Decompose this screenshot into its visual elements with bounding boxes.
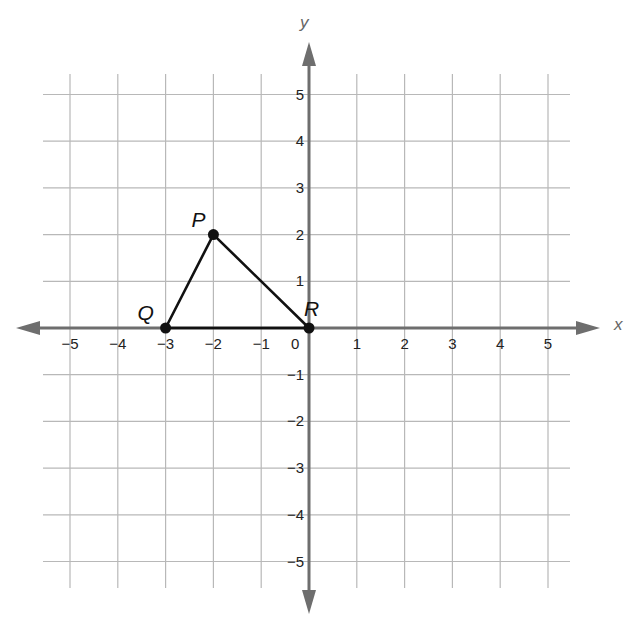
x-tick-label: 2: [400, 335, 408, 352]
point-label-p: P: [191, 208, 205, 231]
coordinate-plane: x y 0 −5−4−3−2−11234554321−1−2−3−4−5 PQR: [0, 0, 644, 640]
x-axis-right-arrow-icon: [576, 321, 600, 335]
origin-label: 0: [291, 335, 299, 352]
y-tick-label: 3: [296, 179, 304, 196]
y-tick-label: 4: [296, 132, 304, 149]
point-q: [160, 323, 171, 334]
y-tick-label: 1: [296, 272, 304, 289]
x-tick-label: −4: [109, 335, 126, 352]
x-tick-label: −1: [253, 335, 270, 352]
y-tick-label: −4: [287, 506, 304, 523]
point-p: [208, 229, 219, 240]
y-axis-down-arrow-icon: [302, 590, 316, 614]
y-tick-label: 2: [296, 226, 304, 243]
y-tick-label: 5: [296, 86, 304, 103]
triangle-pqr: PQR: [138, 208, 320, 334]
axes: x y 0: [16, 13, 623, 614]
x-tick-label: 3: [448, 335, 456, 352]
x-tick-label: 4: [496, 335, 504, 352]
x-tick-label: −5: [61, 335, 78, 352]
x-tick-label: −2: [205, 335, 222, 352]
x-tick-label: 1: [353, 335, 361, 352]
y-tick-label: −5: [287, 553, 304, 570]
point-label-q: Q: [138, 301, 154, 324]
x-axis-label: x: [613, 315, 623, 334]
y-tick-label: −3: [287, 459, 304, 476]
y-axis-label: y: [299, 13, 310, 32]
x-axis-left-arrow-icon: [16, 321, 40, 335]
y-axis-up-arrow-icon: [302, 42, 316, 66]
point-label-r: R: [304, 297, 319, 320]
point-r: [304, 323, 315, 334]
x-tick-label: −3: [157, 335, 174, 352]
x-tick-label: 5: [544, 335, 552, 352]
y-tick-label: −1: [287, 366, 304, 383]
y-tick-label: −2: [287, 412, 304, 429]
coordinate-plane-svg: x y 0 −5−4−3−2−11234554321−1−2−3−4−5 PQR: [0, 0, 644, 640]
